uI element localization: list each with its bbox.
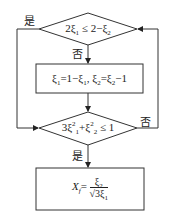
decision-1-text: 2ξ1 ≤ 2−ξ2 bbox=[50, 22, 126, 34]
decision-2-text: 3ξ21+ξ22 ≤ 1 bbox=[52, 121, 124, 133]
edge-label-yes-top: 是 bbox=[24, 15, 35, 27]
edge-label-no-right: 否 bbox=[140, 116, 151, 128]
process-2-text: Xf= ξ2 √3ξ1 bbox=[36, 176, 144, 199]
process-1-text: ξ1=1−ξ1, ξ2=ξ2−1 bbox=[36, 72, 143, 84]
edge-label-no-top: 否 bbox=[72, 48, 83, 60]
edge-label-yes-bottom: 是 bbox=[72, 150, 83, 162]
fraction: ξ2 √3ξ1 bbox=[90, 176, 108, 199]
